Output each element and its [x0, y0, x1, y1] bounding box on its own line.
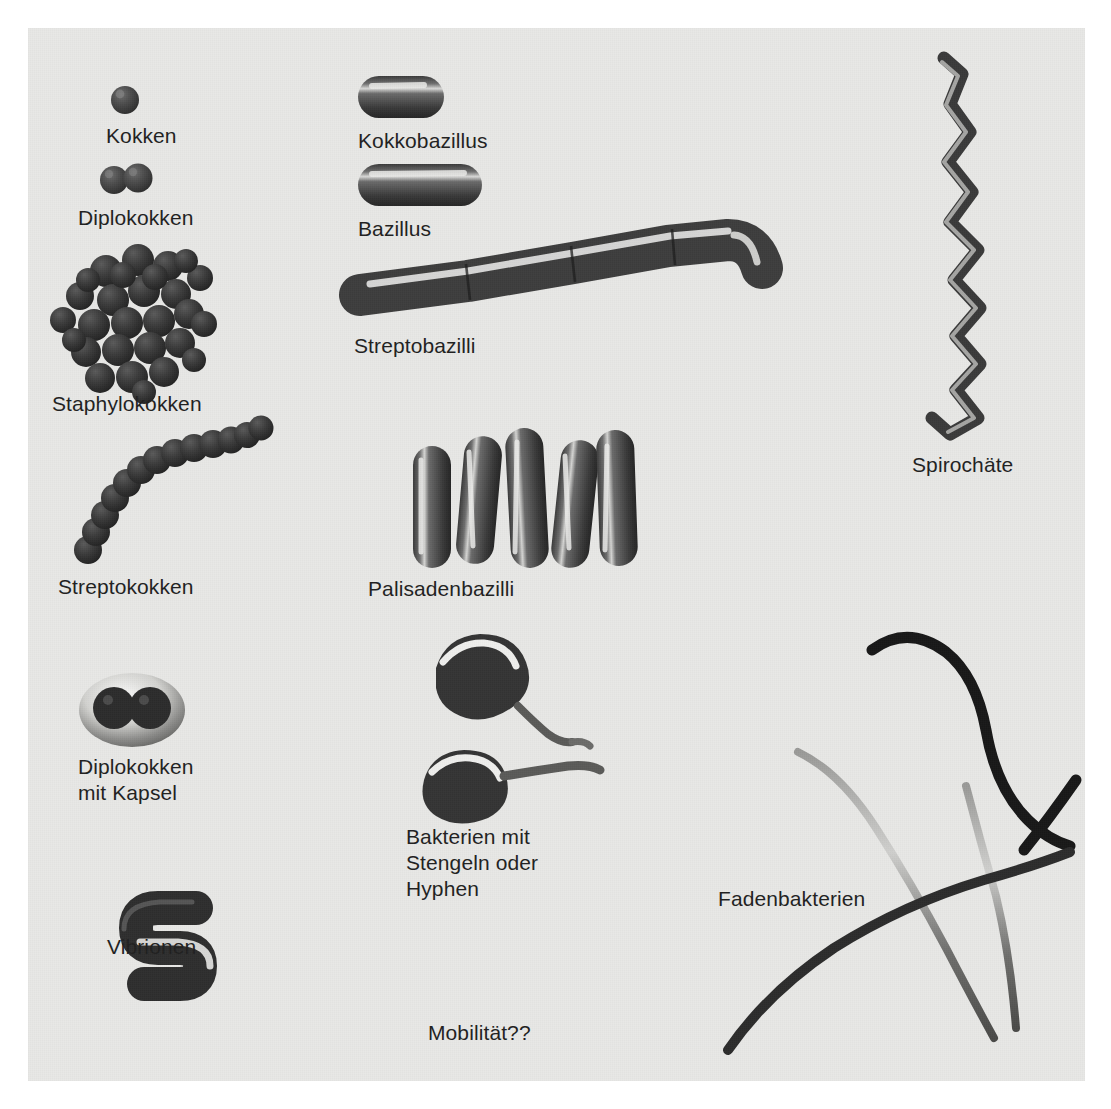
label-diplokokken: Diplokokken — [78, 205, 194, 231]
organism-artwork-canvas — [28, 28, 1085, 1081]
label-staphylokokken: Staphylokokken — [52, 391, 202, 417]
label-streptokokken: Streptokokken — [58, 574, 194, 600]
label-kokken: Kokken — [106, 123, 177, 149]
label-kokkobazillus: Kokkobazillus — [358, 128, 488, 154]
specimen-kokkobazillus — [358, 76, 444, 118]
specimen-diplokokken-mit-kapsel — [79, 673, 185, 747]
label-mobilitaet-question: Mobilität?? — [428, 1020, 531, 1046]
specimen-streptokokken — [74, 416, 274, 565]
label-spirochaete: Spirochäte — [912, 452, 1013, 478]
label-bakterien-mit-stengeln-oder-hyphen: Bakterien mit Stengeln oder Hyphen — [406, 824, 538, 902]
label-streptobazilli: Streptobazilli — [354, 333, 476, 359]
specimen-fadenbakterien — [728, 637, 1076, 1050]
label-palisadenbazilli: Palisadenbazilli — [368, 576, 514, 602]
label-vibrionen: Vibrionen — [107, 934, 196, 960]
label-bazillus: Bazillus — [358, 216, 431, 242]
label-fadenbakterien: Fadenbakterien — [718, 886, 865, 912]
specimen-diplokokken — [100, 164, 153, 195]
specimen-spirochaete — [932, 58, 980, 434]
bacterial-morphology-figure: Kokken Diplokokken Staphylokokken Strept… — [0, 0, 1111, 1109]
specimen-staphylokokken — [50, 244, 217, 404]
specimen-stalked-bacterium-lower — [423, 750, 601, 824]
figure-plate: Kokken Diplokokken Staphylokokken Strept… — [28, 28, 1085, 1081]
specimen-stalked-bacterium-upper — [436, 634, 590, 746]
specimen-palisadenbazilli — [413, 427, 638, 570]
specimen-bazillus — [358, 164, 482, 206]
specimen-kokken — [111, 86, 139, 114]
label-diplokokken-mit-kapsel: Diplokokken mit Kapsel — [78, 754, 194, 806]
